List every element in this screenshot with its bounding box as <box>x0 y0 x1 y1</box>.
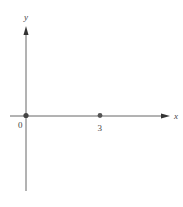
number-line-diagram: y x 0 3 <box>0 0 183 207</box>
x-axis-label: x <box>173 111 178 121</box>
point-three <box>98 113 103 118</box>
y-axis-label: y <box>23 12 28 22</box>
point-origin <box>23 113 28 118</box>
tick-label-3: 3 <box>98 123 103 133</box>
x-axis-arrow-icon <box>161 114 170 119</box>
y-axis-arrow-icon <box>24 26 29 35</box>
tick-label-0: 0 <box>18 120 23 130</box>
